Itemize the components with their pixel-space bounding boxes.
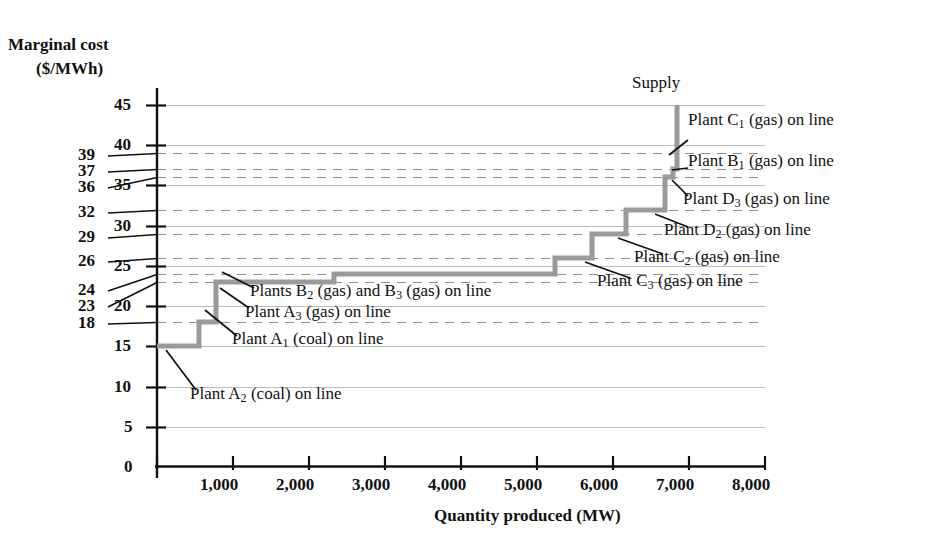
annotation-plant-a2: Plant A2 (coal) on line xyxy=(190,385,342,405)
annotation-plant-d3-post: (gas) on line xyxy=(741,189,830,208)
annotation-plant-c2-pre: Plant C xyxy=(634,247,685,266)
annotation-plant-d2-pre: Plant D xyxy=(664,220,715,239)
chart-canvas xyxy=(0,0,930,556)
x-tick-7000: 7,000 xyxy=(656,476,694,493)
x-tick-8000: 8,000 xyxy=(732,476,770,493)
x-tick-3000: 3,000 xyxy=(352,476,390,493)
y-tick-18: 18 xyxy=(78,314,95,331)
annotation-plant-b1: Plant B1 (gas) on line xyxy=(688,152,834,172)
annotation-plant-c3-post: (gas) on line xyxy=(654,271,743,290)
annotation-plant-a3-pre: Plant A xyxy=(245,302,296,321)
x-axis-title: Quantity produced (MW) xyxy=(434,507,621,524)
x-tick-4000: 4,000 xyxy=(428,476,466,493)
annotation-plant-a1-post: (coal) on line xyxy=(289,329,384,348)
annotation-plant-a1: Plant A1 (coal) on line xyxy=(232,330,384,350)
annotation-plants-b2-b3: Plants B2 (gas) and B3 (gas) on line xyxy=(250,282,491,302)
annotation-plant-b1-pre: Plant B xyxy=(688,151,739,170)
x-tick-2000: 2,000 xyxy=(276,476,314,493)
annotation-plant-a2-post: (coal) on line xyxy=(247,384,342,403)
supply-curve xyxy=(157,105,677,346)
y-tick-0: 0 xyxy=(124,458,133,475)
annotation-plant-a3-post: (gas) on line xyxy=(302,302,391,321)
x-tick-5000: 5,000 xyxy=(504,476,542,493)
x-ticks xyxy=(157,456,765,470)
y-axis-title-line1: Marginal cost xyxy=(8,36,109,53)
annotation-plant-c3-pre: Plant C xyxy=(597,271,648,290)
annotation-plants-b2-b3-mid: (gas) and B xyxy=(313,281,396,300)
supply-series-label: Supply xyxy=(632,74,680,91)
x-tick-6000: 6,000 xyxy=(580,476,618,493)
y-tick-5: 5 xyxy=(124,418,133,435)
y-tick-36: 36 xyxy=(78,178,95,195)
annotation-plant-a1-pre: Plant A xyxy=(232,329,283,348)
y-tick-25: 25 xyxy=(114,257,131,274)
y-tick-30: 30 xyxy=(114,217,131,234)
annotation-plant-d3-pre: Plant D xyxy=(683,189,734,208)
x-tick-1000: 1,000 xyxy=(200,476,238,493)
annotation-plant-a2-pre: Plant A xyxy=(190,384,241,403)
annotation-plant-a3: Plant A3 (gas) on line xyxy=(245,303,391,323)
y-tick-26: 26 xyxy=(78,252,95,269)
y-tick-45: 45 xyxy=(114,96,131,113)
annotation-plant-b1-post: (gas) on line xyxy=(745,151,834,170)
annotation-plant-c1-pre: Plant C xyxy=(688,110,739,129)
annotation-plant-c2: Plant C2 (gas) on line xyxy=(634,248,780,268)
annotation-plant-c1: Plant C1 (gas) on line xyxy=(688,111,834,131)
annotation-plant-c2-post: (gas) on line xyxy=(691,247,780,266)
annotation-plant-d2-post: (gas) on line xyxy=(722,220,811,239)
annotation-plant-d2: Plant D2 (gas) on line xyxy=(664,221,811,241)
y-tick-10: 10 xyxy=(114,378,131,395)
annotation-plants-b2-b3-post: (gas) on line xyxy=(402,281,491,300)
y-tick-29: 29 xyxy=(78,228,95,245)
y-tick-32: 32 xyxy=(78,203,95,220)
annotation-plant-c1-post: (gas) on line xyxy=(745,110,834,129)
y-tick-15: 15 xyxy=(114,337,131,354)
y-tick-20: 20 xyxy=(114,297,131,314)
y-tick-23: 23 xyxy=(78,297,95,314)
y-tick-35: 35 xyxy=(114,176,131,193)
annotation-plant-d3: Plant D3 (gas) on line xyxy=(683,190,830,210)
annotation-plants-b2-b3-pre: Plants B xyxy=(250,281,307,300)
marginal-cost-supply-chart: Marginal cost ($/MWh) Quantity produced … xyxy=(0,0,930,556)
y-axis-title-line2: ($/MWh) xyxy=(36,60,103,77)
y-tick-40: 40 xyxy=(114,136,131,153)
annotation-plant-c3: Plant C3 (gas) on line xyxy=(597,272,743,292)
